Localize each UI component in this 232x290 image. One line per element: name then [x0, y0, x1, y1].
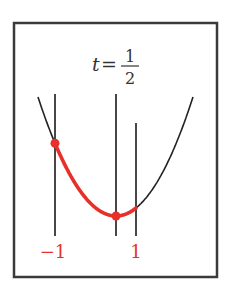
title-variable: t	[92, 53, 100, 75]
title-denominator: 2	[125, 69, 135, 88]
title-numerator: 1	[125, 47, 135, 66]
title-expression: t = 1 2	[92, 47, 139, 88]
highlighted-arc	[55, 143, 136, 216]
marked-points	[51, 139, 121, 221]
middle-point	[112, 212, 121, 221]
left-point	[51, 139, 60, 148]
diagram-canvas: t = 1 2 −1 1	[0, 0, 232, 290]
label-one: 1	[130, 241, 141, 262]
label-minus-one: −1	[40, 241, 67, 262]
title-equals: =	[101, 53, 117, 75]
